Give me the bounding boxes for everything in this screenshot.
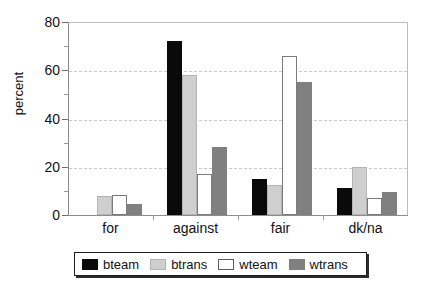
y-tick-label: 60	[20, 62, 60, 78]
y-axis-title: percent	[11, 44, 26, 144]
bar-wtrans-fair	[297, 82, 312, 215]
bar-btrans-for	[97, 196, 112, 215]
bar-btrans-fair	[267, 185, 282, 215]
legend-label-bteam: bteam	[103, 257, 139, 272]
bar-group	[239, 22, 324, 215]
x-tick-label-dk-na: dk/na	[321, 220, 411, 236]
legend-swatch-btrans	[150, 259, 166, 270]
legend-swatch-wtrans	[289, 259, 305, 270]
y-tick-label: 80	[20, 14, 60, 30]
chart-legend: bteambtranswteamwtrans	[74, 252, 367, 276]
bar-wteam-fair	[282, 56, 297, 215]
bar-wteam-against	[197, 174, 212, 215]
legend-swatch-bteam	[82, 259, 98, 270]
bar-wtrans-for	[127, 204, 142, 215]
x-tick-separator	[238, 215, 239, 220]
bar-bteam-dk-na	[337, 188, 352, 215]
legend-entry-wtrans[interactable]: wtrans	[289, 257, 359, 272]
bar-group	[324, 22, 409, 215]
bar-btrans-against	[182, 75, 197, 215]
bar-wtrans-dk-na	[382, 192, 397, 215]
legend-entry-wteam[interactable]: wteam	[218, 257, 288, 272]
y-tick-label: 20	[20, 159, 60, 175]
bar-wteam-dk-na	[367, 198, 382, 215]
legend-label-btrans: btrans	[171, 257, 207, 272]
legend-label-wteam: wteam	[239, 257, 277, 272]
x-tick-label-fair: fair	[236, 220, 326, 236]
bar-group	[69, 22, 154, 215]
bar-bteam-fair	[252, 179, 267, 215]
bar-chart: percent 020406080 foragainstfairdk/na bt…	[0, 0, 422, 285]
legend-entry-bteam[interactable]: bteam	[82, 257, 150, 272]
bar-bteam-against	[167, 41, 182, 215]
bar-group	[154, 22, 239, 215]
x-tick-separator	[323, 215, 324, 220]
bar-btrans-dk-na	[352, 167, 367, 215]
x-tick-label-against: against	[151, 220, 241, 236]
y-tick-label: 40	[20, 111, 60, 127]
x-tick-label-for: for	[66, 220, 156, 236]
bar-wteam-for	[112, 195, 127, 216]
bar-wtrans-against	[212, 147, 227, 215]
plot-area	[68, 22, 408, 215]
legend-entry-btrans[interactable]: btrans	[150, 257, 218, 272]
y-tick-label: 0	[20, 207, 60, 223]
x-tick-separator	[153, 215, 154, 220]
legend-label-wtrans: wtrans	[310, 257, 348, 272]
legend-entries: bteambtranswteamwtrans	[82, 257, 359, 272]
legend-swatch-wteam	[218, 259, 234, 270]
